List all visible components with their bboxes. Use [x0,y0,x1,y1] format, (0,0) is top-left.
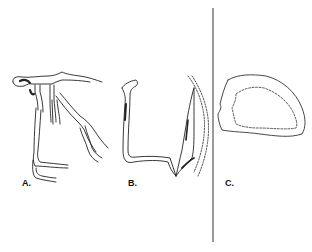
panel-b-drawing [122,76,209,176]
panel-label-b: B. [128,178,137,188]
panel-c-drawing [218,75,305,137]
panel-a-drawing [13,72,108,182]
figure: A. B. C. [0,0,312,252]
drawing-canvas [0,0,312,252]
panel-label-c: C. [225,178,234,188]
panel-label-a: A. [22,178,31,188]
panel-divider [212,8,214,242]
